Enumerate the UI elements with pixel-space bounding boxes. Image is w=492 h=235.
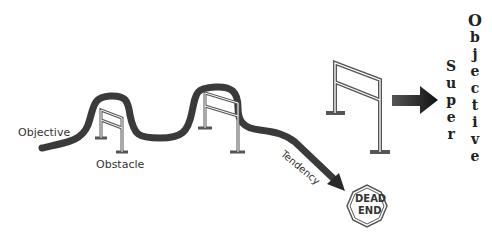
- super-word: S u p e r: [446, 58, 456, 143]
- super-letter: r: [447, 126, 454, 143]
- objective-letter: e: [471, 148, 480, 165]
- super-letter: p: [446, 92, 456, 109]
- objective-letter: e: [471, 63, 480, 80]
- objective-letter: v: [471, 131, 479, 148]
- super-objective-arrow: [392, 86, 438, 114]
- super-letter: e: [447, 109, 456, 126]
- objective-letter: c: [471, 80, 480, 97]
- dead-end-line-1: DEAD: [355, 193, 386, 204]
- obstacle-label: Obstacle: [96, 158, 144, 171]
- objective-letter: j: [472, 46, 477, 63]
- super-letter: S: [446, 58, 456, 75]
- dead-end-line-2: END: [358, 205, 382, 216]
- obstacle-hurdle-1: [95, 110, 128, 152]
- objective-word: O b j e c t i v e: [468, 12, 482, 165]
- objective-letter: O: [468, 12, 482, 29]
- objective-letter: t: [472, 97, 478, 114]
- objective-label: Objective: [18, 126, 70, 139]
- objective-letter: i: [472, 114, 477, 131]
- super-letter: u: [446, 75, 456, 92]
- objective-letter: b: [470, 29, 480, 46]
- objective-diagram: Objective Obstacle Tendency DEAD END S u…: [0, 0, 492, 235]
